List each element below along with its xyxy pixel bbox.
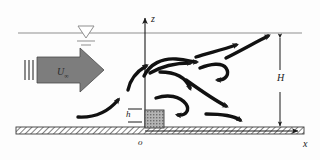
origin-label: o	[138, 138, 143, 147]
velocity-subscript: ∞	[64, 73, 68, 79]
z-axis-label: z	[151, 14, 155, 24]
turbulent-wake-streamlines	[78, 36, 268, 120]
flow-schematic-figure: z x o H h U∞	[0, 0, 320, 160]
obstacle-height-label: h	[126, 110, 131, 119]
x-axis-label: x	[303, 139, 307, 149]
depth-label: H	[277, 73, 284, 83]
diagram-canvas	[0, 0, 320, 160]
water-level-triangle	[77, 26, 95, 45]
velocity-label: U∞	[57, 67, 69, 79]
bottom-obstacle-block	[145, 110, 164, 128]
